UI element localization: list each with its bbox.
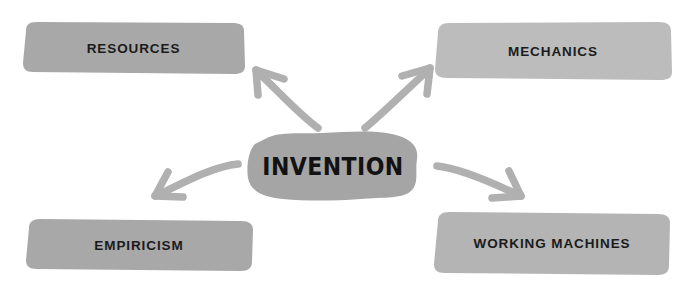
arrow-to-empiricism [155,164,238,197]
arrow-to-working-machines [437,166,521,198]
node-shape-working-machines[interactable] [434,212,670,275]
diagram-graphics [0,0,693,294]
node-shape-center-invention[interactable] [247,132,417,201]
node-shape-resources[interactable] [23,22,245,74]
node-shape-empiricism[interactable] [26,219,253,271]
diagram-canvas: RESOURCES MECHANICS EMPIRICISM WORKING M… [0,0,693,294]
node-shape-mechanics[interactable] [435,22,672,80]
arrow-to-resources [256,70,318,128]
arrow-to-mechanics [365,68,430,128]
